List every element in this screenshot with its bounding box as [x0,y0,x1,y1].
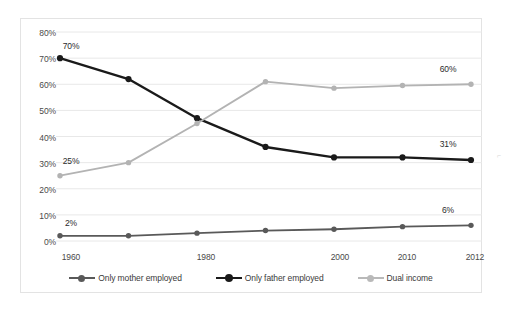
corner-artifact-icon: ⌐ [497,152,501,159]
legend-label-dual-income: Dual income [387,273,433,283]
legend-label-only-mother-employed: Only mother employed [98,273,182,283]
x-tick-label-2000: 2000 [320,252,360,262]
data-label-mother-2012: 6% [428,205,468,215]
data-label-father-1960: 70% [51,41,91,51]
legend-marker-icon-dual-income [358,273,384,283]
y-tick-label-70: 70% [24,54,56,64]
x-tick-label-2010: 2010 [387,252,427,262]
data-label-dual-2012: 60% [428,64,468,74]
legend-item-only-father-employed[interactable]: Only father employed [216,273,324,283]
y-tick-label-50: 50% [24,106,56,116]
legend-item-dual-income[interactable]: Dual income [358,273,433,283]
legend-marker-icon-only-father-employed [216,273,242,283]
legend-label-only-father-employed: Only father employed [245,273,324,283]
chart-legend: Only mother employed Only father employe… [20,268,482,288]
y-tick-label-40: 40% [24,133,56,143]
data-label-father-2012: 31% [428,139,468,149]
x-tick-label-1980: 1980 [186,252,226,262]
y-tick-label-60: 60% [24,80,56,90]
data-label-dual-1960: 25% [51,156,91,166]
legend-item-only-mother-employed[interactable]: Only mother employed [69,273,182,283]
y-tick-label-80: 80% [24,28,56,38]
legend-marker-icon-only-mother-employed [69,273,95,283]
x-tick-label-2012: 2012 [455,252,495,262]
x-tick-label-1960: 1960 [51,252,91,262]
y-tick-label-20: 20% [24,185,56,195]
data-label-mother-1960: 2% [51,218,91,228]
y-tick-label-0: 0% [24,237,56,247]
